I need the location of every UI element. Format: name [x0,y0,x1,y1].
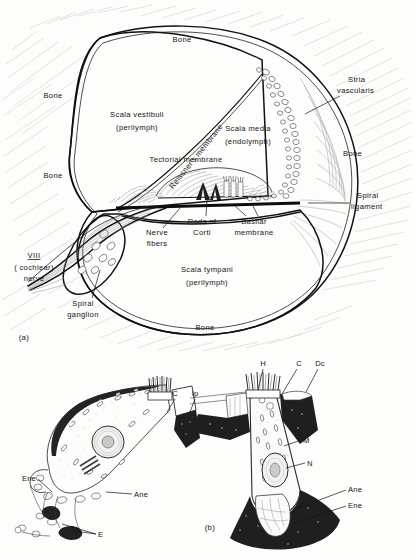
label-right-dc: Dc [315,359,325,368]
label-scala-vestibuli: Scala vestibuli [110,110,164,119]
label-bone-bottom: Bone [195,323,214,332]
label-scala-media-endolymph: (endolymph) [225,137,271,146]
label-scala-media: Scala media [225,124,271,133]
label-right-ene: Ene [348,501,362,510]
label-nerve-fibers-line1: Nerve [146,228,168,237]
label-left-ene: Ene [22,474,36,483]
cochlea-figure: Bone Bone Bone Bone Bone Scala vestibuli… [0,0,413,558]
label-scala-tympani-perilymph: (perilymph) [186,278,228,287]
label-bone-right: Bone [343,149,362,158]
label-scala-tympani: Scala tympani [181,265,233,274]
label-left-c: C [172,389,178,398]
label-left-e: E [98,530,103,539]
label-bone-left-upper: Bone [43,91,62,100]
label-basilar-membrane-line1: Basilar [241,217,267,226]
label-spiral-ganglion-line2: ganglion [67,310,99,319]
label-right-m: M [303,436,310,445]
figure-canvas: Bone Bone Bone Bone Bone Scala vestibuli… [0,0,413,558]
label-basilar-membrane-line2: membrane [234,228,273,237]
label-nerve-viii-numeral: VIII [28,251,41,260]
label-stria-vascularis-line1: Stria [348,75,366,84]
label-nerve-viii-line1: ( cochlear) [14,263,54,272]
nucleolus-right [270,463,280,477]
label-left-ane: Ane [134,490,148,499]
panel-a-caption: (a) [19,333,30,342]
label-bone-left-lower: Bone [43,171,62,180]
panel-b-caption: (b) [205,523,216,532]
label-scala-vestibuli-perilymph: (perilymph) [116,123,158,132]
label-stria-vascularis-line2: vascularis [337,86,374,95]
label-nerve-fibers-line2: fibers [147,239,168,248]
nucleolus [102,436,114,448]
label-spiral-ligament-line1: Spiral [357,191,379,200]
label-right-h: H [260,359,266,368]
label-right-ane: Ane [348,485,362,494]
label-spiral-ganglion-line1: Spiral [72,299,94,308]
label-spiral-ligament-line2: ligament [351,202,383,211]
label-nerve-viii-line2: nerve [24,274,45,283]
label-bone-top: Bone [172,35,191,44]
label-rods-of-corti-line1: Rods of [188,217,217,226]
label-left-ip: Ip [192,389,199,398]
label-right-c: C [296,359,302,368]
label-right-n: N [307,459,313,468]
label-rods-of-corti-line2: Corti [193,228,211,237]
